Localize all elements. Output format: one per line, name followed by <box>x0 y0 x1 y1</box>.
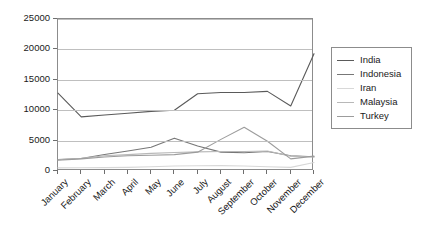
x-axis-tick-mark <box>80 170 81 174</box>
gridline <box>58 80 312 81</box>
legend-line-swatch <box>337 60 354 61</box>
series-line <box>58 127 314 160</box>
legend-item-label: Iran <box>360 83 376 93</box>
series-line <box>58 162 314 167</box>
x-axis-tick-mark <box>150 170 151 174</box>
series-line <box>58 54 314 117</box>
plot-area <box>57 18 313 170</box>
gridline <box>58 141 312 142</box>
legend-item-turkey[interactable]: Turkey <box>337 109 405 123</box>
legend-item-india[interactable]: India <box>337 53 405 67</box>
y-axis-tick-label: 20000 <box>24 43 50 53</box>
y-axis-tick-mark <box>53 140 57 141</box>
legend-item-indonesia[interactable]: Indonesia <box>337 67 405 81</box>
x-axis-tick-mark <box>313 170 314 174</box>
legend-item-label: Turkey <box>360 111 389 121</box>
x-axis-tick-mark <box>243 170 244 174</box>
y-axis-tick-label: 0 <box>45 165 50 175</box>
x-axis-tick-mark <box>173 170 174 174</box>
series-lines <box>58 19 314 171</box>
y-axis-tick-mark <box>53 79 57 80</box>
y-axis-tick-mark <box>53 18 57 19</box>
legend-line-swatch <box>337 74 354 75</box>
x-axis-tick-mark <box>104 170 105 174</box>
x-axis-tick-mark <box>197 170 198 174</box>
y-axis-tick-label: 15000 <box>24 74 50 84</box>
legend-item-label: Indonesia <box>360 69 401 79</box>
gridline <box>58 49 312 50</box>
legend-item-malaysia[interactable]: Malaysia <box>337 95 405 109</box>
legend-item-label: India <box>360 55 381 65</box>
line-chart: 0500010000150002000025000 JanuaryFebruar… <box>0 0 423 239</box>
y-axis-tick-mark <box>53 48 57 49</box>
series-line <box>58 151 314 160</box>
legend-item-iran[interactable]: Iran <box>337 81 405 95</box>
gridline <box>58 19 312 20</box>
legend-line-swatch <box>337 88 354 89</box>
y-axis-tick-label: 25000 <box>24 13 50 23</box>
y-axis-tick-label: 5000 <box>29 135 50 145</box>
x-axis-tick-mark <box>290 170 291 174</box>
legend-item-label: Malaysia <box>360 97 398 107</box>
legend-line-swatch <box>337 116 354 117</box>
x-axis-tick-mark <box>266 170 267 174</box>
x-axis-tick-mark <box>220 170 221 174</box>
chart-legend: IndiaIndonesiaIranMalaysiaTurkey <box>331 47 412 129</box>
x-axis-tick-mark <box>57 170 58 174</box>
y-axis-tick-label: 10000 <box>24 104 50 114</box>
x-axis-tick-mark <box>127 170 128 174</box>
y-axis-tick-mark <box>53 109 57 110</box>
gridline <box>58 110 312 111</box>
legend-line-swatch <box>337 102 354 103</box>
